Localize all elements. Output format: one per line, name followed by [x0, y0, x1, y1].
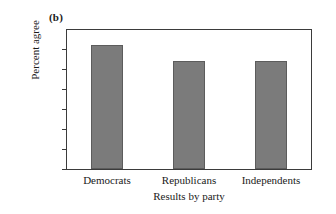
y-axis-title: Percent agree — [29, 0, 41, 115]
y-tick-mark — [62, 69, 67, 70]
y-tick-mark — [62, 149, 67, 150]
x-tick-label: Independents — [211, 173, 331, 187]
bar-chart-figure: (b) Percent agree 0102030405060 Democrat… — [0, 0, 336, 214]
y-tick-mark — [62, 49, 67, 50]
bar — [173, 61, 205, 169]
bar — [255, 61, 287, 169]
y-tick-mark — [62, 129, 67, 130]
x-axis-title: Results by party — [66, 190, 312, 202]
bar — [91, 45, 123, 169]
panel-label: (b) — [49, 11, 63, 23]
y-tick-mark — [62, 89, 67, 90]
y-tick-mark — [62, 109, 67, 110]
y-tick-mark — [62, 169, 67, 170]
